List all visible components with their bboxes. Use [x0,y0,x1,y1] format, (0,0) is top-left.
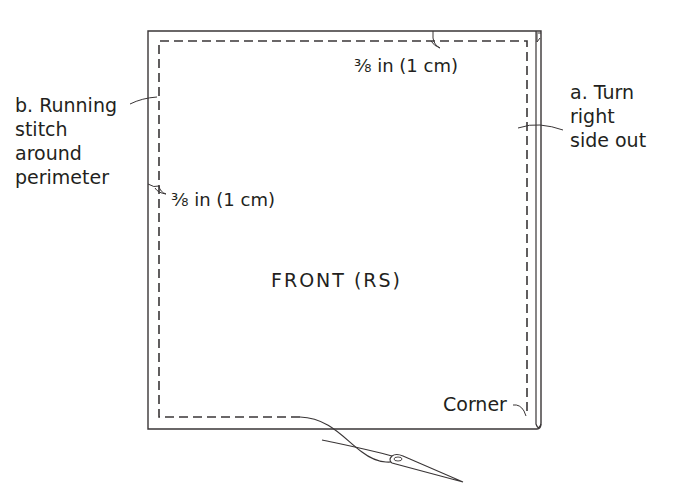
rolled-edge [536,31,541,428]
step-b-line3: around [15,141,117,165]
needle-with-thread-icon [390,455,463,483]
step-a-line2: right [570,104,646,128]
front-rs-label: FRONT (RS) [271,268,402,292]
step-b-line2: stitch [15,117,117,141]
step-b-line1: b. Running [15,93,117,117]
rolled-edge-top-fold [536,33,541,42]
step-b-label: b. Running stitch around perimeter [15,93,117,189]
leader-top-seam [431,31,440,48]
leader-left-seam [148,184,166,194]
step-a-label: a. Turn right side out [570,80,646,152]
corner-label: Corner [443,392,507,416]
thread-tail [322,440,398,458]
running-stitch-line [159,41,527,417]
leader-running-stitch [130,97,157,104]
left-seam-allowance-label: ⅜ in (1 cm) [171,188,275,212]
fabric-diagram [0,0,691,503]
leader-corner [513,405,526,416]
thread [300,417,400,462]
top-seam-allowance-label: ⅜ in (1 cm) [354,54,458,78]
step-a-line1: a. Turn [570,80,646,104]
step-b-line4: perimeter [15,165,117,189]
step-a-line3: side out [570,128,646,152]
fabric-outline [148,31,541,429]
